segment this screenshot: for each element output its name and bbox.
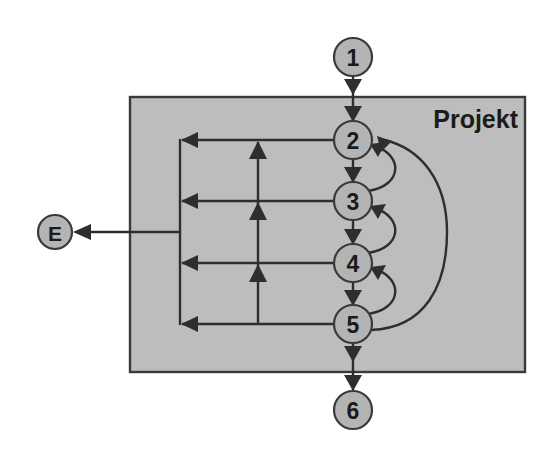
projekt-container-label: Projekt [433, 105, 518, 133]
node-2-label: 2 [347, 128, 360, 154]
edge-5-to-6-arrowhead [344, 375, 362, 391]
node-1[interactable]: 1 [334, 38, 372, 76]
edge-bus-to-E-arrowhead [73, 224, 91, 240]
node-4-label: 4 [347, 251, 360, 277]
node-5-label: 5 [347, 312, 360, 338]
node-6-label: 6 [347, 398, 360, 424]
node-1-label: 1 [347, 45, 360, 71]
node-6[interactable]: 6 [334, 391, 372, 429]
node-3[interactable]: 3 [334, 182, 372, 220]
node-E[interactable]: E [38, 215, 72, 249]
diagram-canvas: Projekt [0, 0, 550, 456]
node-E-label: E [48, 222, 62, 245]
node-5[interactable]: 5 [334, 305, 372, 343]
node-4[interactable]: 4 [334, 244, 372, 282]
edge-1-to-2-arrowhead-mid [344, 79, 362, 95]
flow-diagram-svg: Projekt [0, 0, 550, 456]
node-3-label: 3 [347, 189, 360, 215]
node-2[interactable]: 2 [334, 121, 372, 159]
